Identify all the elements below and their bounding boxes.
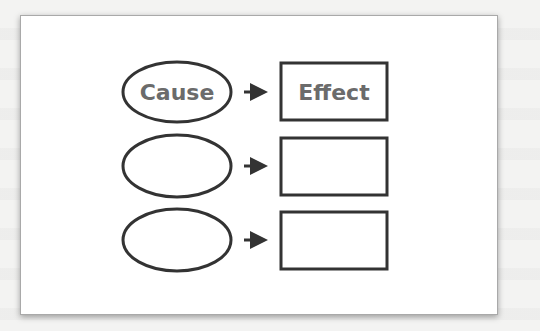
row-3 (123, 209, 387, 271)
cause-ellipse-3 (123, 209, 231, 271)
row-2 (123, 135, 387, 197)
effect-box-2 (281, 138, 387, 195)
effect-label-1: Effect (298, 80, 370, 105)
row-1: Cause Effect (123, 62, 387, 122)
cause-label-1: Cause (140, 80, 215, 105)
diagram-card: Cause Effect (20, 15, 498, 315)
cause-ellipse-2 (123, 135, 231, 197)
effect-box-3 (281, 212, 387, 269)
cause-effect-diagram: Cause Effect (21, 16, 499, 316)
